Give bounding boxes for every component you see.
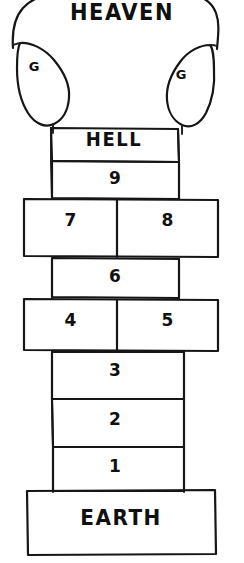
gate-left-label: G <box>24 60 44 73</box>
rung-label-6: 6 <box>52 267 178 285</box>
rung-label-1: 1 <box>52 457 178 475</box>
gate-right-label: G <box>171 68 191 81</box>
gate-right-teardrop <box>167 45 217 126</box>
rung-label-4: 4 <box>24 311 117 329</box>
rung-label-2: 2 <box>52 410 178 428</box>
gate-left-teardrop <box>13 43 69 126</box>
rung-label-3: 3 <box>52 361 178 379</box>
hell-label: HELL <box>50 131 178 150</box>
rung-label-7: 7 <box>24 211 117 229</box>
rung-label-5: 5 <box>117 311 218 329</box>
rung-label-8: 8 <box>117 211 218 229</box>
heaven-label: HEAVEN <box>22 2 222 24</box>
diagram-canvas: HEAVEN G G HELL 9 7 8 6 4 5 3 2 1 EARTH <box>0 0 244 563</box>
earth-label: EARTH <box>27 508 215 529</box>
rung-label-9: 9 <box>52 169 178 187</box>
